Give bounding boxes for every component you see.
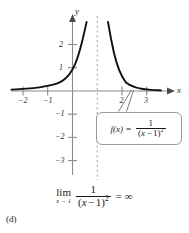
x-tick-label-2: 2: [120, 96, 124, 105]
curve-right-branch: [108, 22, 161, 90]
limit-lim-text: lim: [56, 187, 71, 198]
function-denominator: (x−1)2: [136, 129, 166, 138]
limit-result-infinity: ∞: [125, 190, 133, 202]
limit-equals-sign: =: [116, 190, 122, 202]
denominator-minus: −: [146, 128, 151, 138]
limit-operator: lim x → 1: [56, 187, 71, 205]
limit-fraction: 1 (x−1)2: [76, 184, 111, 208]
limit-denominator: (x−1)2: [76, 197, 111, 209]
function-name: f(x): [110, 124, 123, 134]
limit-numerator: 1: [88, 184, 100, 196]
y-axis-label: y: [75, 6, 79, 16]
panel-label: (d): [6, 214, 17, 224]
figure-panel: −2 −1 2 3 2 1 −1 −2 −3 x y f(x) = 1 (x−1…: [0, 0, 189, 233]
function-expression: f(x) = 1 (x−1)2: [110, 119, 167, 139]
y-tick-label-minus1: −1: [55, 109, 64, 118]
curve-left-branch: [12, 22, 87, 90]
function-equals-sign: =: [126, 124, 131, 134]
y-tick-label-2: 2: [59, 40, 63, 49]
limit-expression: lim x → 1 1 (x−1)2 = ∞: [56, 184, 132, 208]
function-fraction: 1 (x−1)2: [136, 119, 166, 139]
limit-denominator-exponent: 2: [105, 194, 109, 203]
limit-subscript: x → 1: [56, 198, 71, 205]
function-numerator: 1: [146, 119, 157, 128]
denominator-exponent: 2: [161, 127, 164, 133]
limit-caption: lim x → 1 1 (x−1)2 = ∞: [0, 184, 189, 208]
function-callout-box: f(x) = 1 (x−1)2: [96, 112, 182, 145]
y-tick-label-minus2: −2: [55, 132, 64, 141]
denominator-variable: x: [141, 128, 145, 138]
y-tick-label-1: 1: [59, 63, 63, 72]
limit-denominator-variable: x: [82, 196, 87, 208]
x-tick-label-minus1: −1: [43, 96, 52, 105]
x-tick-label-minus2: −2: [18, 96, 27, 105]
x-tick-label-3: 3: [144, 96, 148, 105]
function-callout-content: f(x) = 1 (x−1)2: [97, 113, 181, 144]
y-tick-label-minus3: −3: [55, 156, 64, 165]
y-axis: [69, 14, 76, 175]
limit-denominator-minus: −: [88, 196, 94, 208]
x-axis-label: x: [177, 85, 181, 95]
